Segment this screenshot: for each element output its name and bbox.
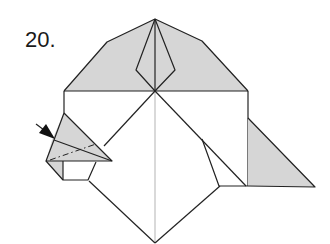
push-arrow-icon <box>36 124 55 139</box>
right-shaded-flap <box>248 118 315 187</box>
left-flap <box>46 113 112 180</box>
origami-diagram <box>0 0 330 244</box>
body-outline <box>64 91 248 243</box>
top-shaded-flap <box>64 19 248 91</box>
